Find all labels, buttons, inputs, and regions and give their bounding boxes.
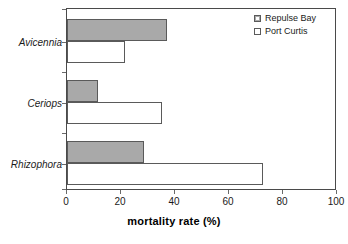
y-category-label-ceriops: Ceriops bbox=[0, 98, 62, 109]
y-category-label-rhizophora: Rhizophora bbox=[0, 159, 62, 170]
mortality-rate-bar-chart: Avicennia Ceriops Rhizophora Repulse Bay… bbox=[0, 0, 348, 244]
x-axis-tick bbox=[174, 190, 175, 194]
x-tick-label-20: 20 bbox=[100, 196, 140, 208]
legend-swatch-icon-port-curtis bbox=[254, 28, 261, 35]
legend-label-repulse-bay: Repulse Bay bbox=[265, 13, 316, 23]
chart-legend: Repulse Bay Port Curtis bbox=[254, 12, 334, 38]
plot-area: Repulse Bay Port Curtis bbox=[66, 8, 336, 190]
legend-label-port-curtis: Port Curtis bbox=[265, 26, 308, 36]
legend-item-repulse-bay: Repulse Bay bbox=[254, 12, 334, 24]
x-tick-label-60: 60 bbox=[208, 196, 248, 208]
legend-item-port-curtis: Port Curtis bbox=[254, 25, 334, 37]
x-tick-label-80: 80 bbox=[262, 196, 302, 208]
y-category-label-avicennia: Avicennia bbox=[0, 37, 62, 48]
bar-ceriops-port-curtis bbox=[67, 102, 162, 124]
bar-avicennia-repulse-bay bbox=[67, 19, 167, 41]
x-tick-label-0: 0 bbox=[46, 196, 86, 208]
bar-rhizophora-port-curtis bbox=[67, 163, 263, 185]
bar-rhizophora-repulse-bay bbox=[67, 141, 144, 163]
bar-ceriops-repulse-bay bbox=[67, 80, 98, 102]
bar-avicennia-port-curtis bbox=[67, 41, 125, 63]
legend-swatch-icon-repulse-bay bbox=[254, 15, 261, 22]
x-axis-title: mortality rate (%) bbox=[0, 215, 348, 227]
x-tick-label-100: 100 bbox=[316, 196, 348, 208]
x-axis-tick bbox=[66, 190, 67, 194]
x-axis-tick bbox=[336, 190, 337, 194]
x-tick-label-40: 40 bbox=[154, 196, 194, 208]
x-axis-tick bbox=[228, 190, 229, 194]
x-axis-tick bbox=[120, 190, 121, 194]
x-axis-tick bbox=[282, 190, 283, 194]
